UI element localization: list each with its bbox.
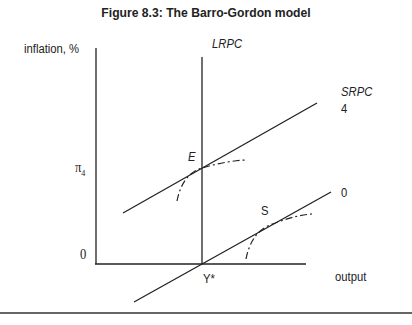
srpc-4-label: 4: [341, 102, 347, 116]
indifference-curve-e: [177, 160, 245, 201]
y-axis-label: inflation, %: [24, 42, 79, 56]
point-s-label: S: [261, 204, 269, 218]
point-e-label: E: [188, 150, 196, 164]
lrpc-label: LRPC: [212, 37, 242, 51]
y-star-label: Y*: [203, 272, 215, 286]
pi-4-tick-label: π4: [75, 160, 85, 178]
srpc-0-line: [134, 192, 331, 302]
x-axis-label: output: [335, 270, 366, 284]
srpc-4-line: [123, 103, 317, 213]
srpc-label: SRPC: [341, 85, 372, 99]
origin-label: 0: [80, 247, 86, 263]
srpc-0-label: 0: [341, 186, 347, 200]
